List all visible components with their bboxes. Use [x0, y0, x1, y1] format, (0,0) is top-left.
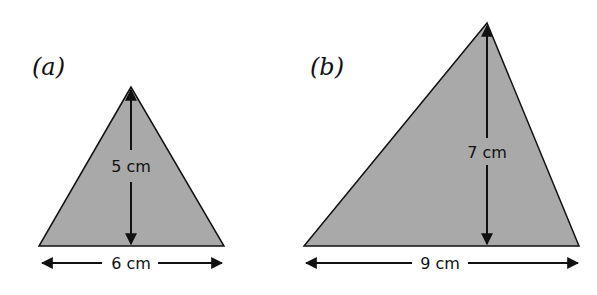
base-label-a: 6 cm: [111, 254, 151, 273]
figure-b: (b) 7 cm 9 cm: [304, 23, 579, 273]
triangles-diagram: (a) 5 cm 6 cm (b) 7 cm 9 cm: [0, 0, 597, 295]
figure-a-label: (a): [32, 53, 65, 81]
base-label-b: 9 cm: [420, 254, 460, 273]
figure-b-label: (b): [310, 53, 344, 81]
height-label-a: 5 cm: [111, 157, 151, 176]
height-label-b: 7 cm: [467, 143, 507, 162]
triangle-b: [304, 23, 579, 246]
figure-a: (a) 5 cm 6 cm: [32, 53, 224, 273]
